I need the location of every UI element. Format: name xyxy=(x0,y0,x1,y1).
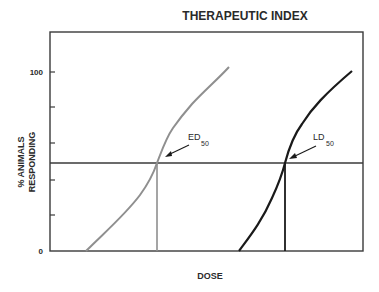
ld50-subscript: 50 xyxy=(326,140,334,147)
y-tick-0: 0 xyxy=(39,247,44,256)
y-axis-label-line1: % ANIMALS xyxy=(16,136,26,187)
y-axis-label: % ANIMALS RESPONDING xyxy=(16,132,37,193)
ld50-label: LD xyxy=(313,132,325,142)
y-tick-100: 100 xyxy=(30,68,44,77)
x-axis-label: DOSE xyxy=(197,271,223,281)
ld50-arrow-line xyxy=(293,146,316,157)
y-axis-ticks xyxy=(50,72,55,215)
ed50-annotation: ED 50 xyxy=(165,132,209,157)
ed50-subscript: 50 xyxy=(201,140,209,147)
chart-title: THERAPEUTIC INDEX xyxy=(182,9,307,23)
lethal-dose-curve xyxy=(239,71,352,251)
y-axis-label-line2: RESPONDING xyxy=(27,132,37,193)
ed50-label: ED xyxy=(188,132,201,142)
ed50-arrow-icon xyxy=(165,151,172,157)
ld50-arrow-icon xyxy=(289,153,297,159)
chart-canvas: THERAPEUTIC INDEX 100 0 % ANIMALS RESPON… xyxy=(0,0,379,292)
